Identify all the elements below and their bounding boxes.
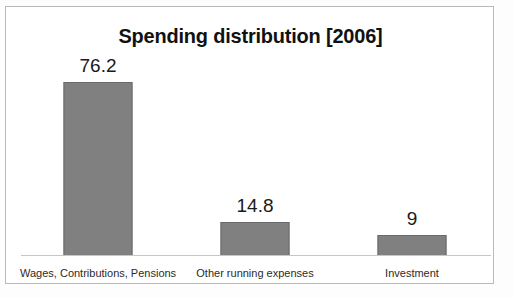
bar[interactable] — [64, 82, 133, 256]
cropped-caption-sliver — [4, 290, 304, 298]
chart-title: Spending distribution [2006] — [18, 24, 483, 48]
category-label: Wages, Contributions, Pensions — [20, 267, 176, 279]
category-label: Investment — [334, 267, 490, 279]
bar-value-label: 9 — [407, 208, 418, 230]
bar-value-label: 76.2 — [80, 55, 117, 77]
bar-group: 14.8 — [177, 62, 333, 256]
category-label: Other running expenses — [177, 267, 333, 279]
category-axis-line — [21, 255, 491, 256]
plot-area: 76.2 14.8 9 — [20, 62, 490, 256]
category-axis-labels: Wages, Contributions, Pensions Other run… — [20, 267, 490, 287]
bar[interactable] — [378, 235, 447, 256]
bar-group: 76.2 — [20, 62, 176, 256]
bar[interactable] — [221, 222, 290, 256]
chart-frame: Spending distribution [2006] 76.2 14.8 9… — [5, 6, 494, 284]
scanned-page: Spending distribution [2006] 76.2 14.8 9… — [0, 0, 514, 298]
bar-group: 9 — [334, 62, 490, 256]
bar-value-label: 14.8 — [237, 195, 274, 217]
